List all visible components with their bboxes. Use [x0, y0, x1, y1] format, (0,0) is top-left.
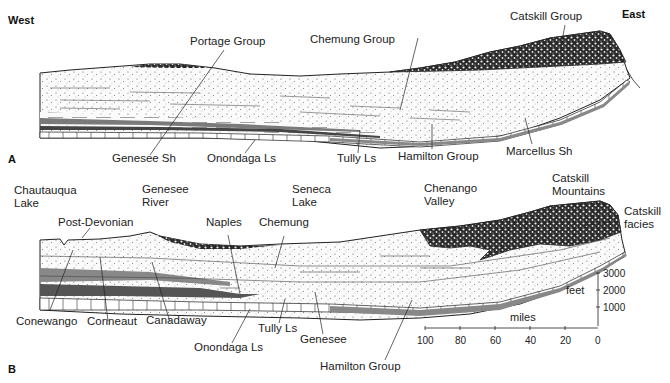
scale-tick-0: 0	[595, 334, 601, 347]
label-genesee: Genesee	[300, 333, 347, 346]
scale-tick-2000: 2000	[603, 284, 625, 297]
label-post-devonian: Post-Devonian	[58, 216, 133, 229]
scale-tick-1000: 1000	[603, 301, 625, 314]
label-marcellus-sh: Marcellus Sh	[506, 145, 572, 158]
direction-east-label: East	[622, 8, 645, 21]
label-genesee-sh: Genesee Sh	[112, 152, 176, 165]
scale-tick-100: 100	[417, 334, 434, 347]
label-canadaway: Canadaway	[146, 314, 207, 327]
label-onondaga-ls-b: Onondaga Ls	[194, 341, 263, 354]
label-hamilton-group-a: Hamilton Group	[398, 150, 479, 163]
label-tully-ls-b: Tully Ls	[258, 322, 297, 335]
scale-miles-label: miles	[510, 311, 536, 324]
label-conneaut: Conneaut	[87, 315, 137, 328]
place-catskill-mountains: Catskill Mountains	[552, 172, 605, 198]
label-chemung: Chemung	[259, 216, 309, 229]
place-genesee-river: Genesee River	[142, 183, 189, 209]
label-catskill-facies: Catskill facies	[624, 205, 661, 231]
place-chautauqua-lake: Chautauqua Lake	[14, 184, 77, 210]
label-catskill-group: Catskill Group	[510, 10, 582, 23]
label-naples: Naples	[206, 216, 242, 229]
scale-tick-40: 40	[525, 334, 536, 347]
label-onondaga-ls-a: Onondaga Ls	[207, 152, 276, 165]
label-conewango: Conewango	[16, 315, 77, 328]
scale-tick-80: 80	[455, 334, 466, 347]
panel-a-letter: A	[8, 153, 16, 166]
scale-tick-20: 20	[560, 334, 571, 347]
direction-west-label: West	[8, 14, 34, 27]
label-portage-group: Portage Group	[190, 35, 265, 48]
label-tully-ls-a: Tully Ls	[337, 152, 376, 165]
scale-tick-3000: 3000	[603, 267, 625, 280]
label-chemung-group: Chemung Group	[310, 33, 395, 46]
label-hamilton-group-b: Hamilton Group	[320, 360, 401, 373]
place-seneca-lake: Seneca Lake	[292, 183, 331, 209]
place-chenango-valley: Chenango Valley	[424, 182, 477, 208]
scale-tick-60: 60	[490, 334, 501, 347]
panel-b-letter: B	[8, 363, 16, 376]
scale-feet-label: feet	[566, 284, 584, 297]
